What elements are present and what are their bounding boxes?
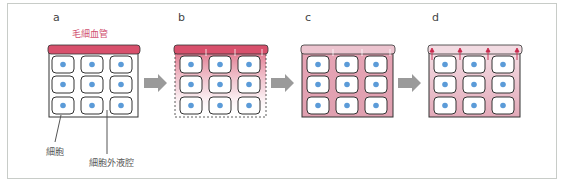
panel-a [48, 45, 140, 154]
diagram-graphics [0, 0, 564, 184]
arrow-a-to-b [144, 74, 167, 92]
arrow-c-to-d [398, 74, 421, 92]
panel-b [174, 45, 268, 117]
panel-d [428, 45, 522, 117]
arrow-b-to-c [271, 74, 294, 92]
panel-c [301, 45, 395, 117]
